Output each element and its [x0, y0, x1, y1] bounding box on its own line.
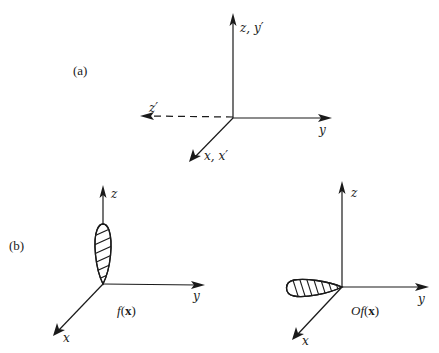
y-axis [103, 284, 198, 285]
function-label-of: Of(x) [351, 303, 379, 318]
x-axis-label: x [302, 334, 309, 348]
panel-a: (a) z, y′ y z′ x, x′ [73, 13, 332, 163]
panel-a-label: (a) [73, 63, 87, 78]
zprime-axis-label: z′ [148, 101, 158, 115]
function-label-f: f(x) [117, 303, 136, 318]
panel-b-left: z y x f(x) [53, 185, 205, 345]
lobe-f [95, 224, 111, 284]
panel-b-label: (b) [9, 238, 24, 253]
zprime-axis [148, 116, 233, 117]
x-xprime-axis-label: x, x′ [204, 149, 228, 163]
z-yprime-axis-label: z, y′ [239, 21, 264, 35]
y-axis-label: y [318, 123, 326, 137]
z-axis-label: z [350, 186, 358, 200]
x-axis-label: x [63, 331, 70, 345]
y-axis-label: y [192, 289, 200, 303]
x-arrowhead-icon [189, 149, 201, 162]
x-axis [58, 284, 103, 331]
z-axis-label: z [110, 187, 118, 201]
y-axis-label: y [417, 292, 425, 306]
rotation-diagram: (a) z, y′ y z′ x, x′ (b) z [0, 0, 439, 353]
panel-b-right: z y x Of(x) [287, 181, 430, 348]
